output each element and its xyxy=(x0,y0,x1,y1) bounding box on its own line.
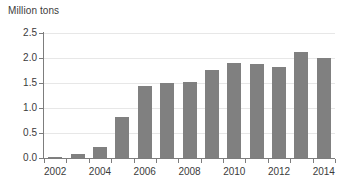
x-axis-tick-mark xyxy=(156,159,157,163)
x-axis-tick-label: 2004 xyxy=(80,166,120,177)
chart-title: Million tons xyxy=(8,5,59,17)
bar xyxy=(115,117,129,158)
x-axis-tick-mark xyxy=(313,159,314,163)
bar xyxy=(227,63,241,159)
y-axis-tick-label: 0.5 xyxy=(23,128,37,138)
x-axis-tick-mark xyxy=(290,159,291,163)
x-axis-tick-label: 2008 xyxy=(170,166,210,177)
bar xyxy=(272,67,286,159)
y-axis-tick-label: 1.5 xyxy=(23,78,37,88)
bar-chart: Million tons 0.00.51.01.52.02.5 20022004… xyxy=(0,0,343,185)
bar xyxy=(93,147,107,158)
x-axis-tick-mark xyxy=(134,159,135,163)
x-axis-tick-label: 2012 xyxy=(259,166,299,177)
plot-area xyxy=(44,33,335,158)
x-axis-tick-mark xyxy=(245,159,246,163)
bar xyxy=(48,157,62,159)
x-axis-tick-mark xyxy=(201,159,202,163)
x-axis-tick-mark xyxy=(66,159,67,163)
bar xyxy=(71,154,85,158)
y-axis-tick-label: 2.0 xyxy=(23,53,37,63)
bar xyxy=(317,58,331,158)
y-axis-tick-label: 2.5 xyxy=(23,28,37,38)
x-axis-tick-mark xyxy=(178,159,179,163)
x-axis-tick-label: 2002 xyxy=(35,166,75,177)
bar xyxy=(250,64,264,158)
bar xyxy=(294,52,308,159)
bar xyxy=(138,86,152,159)
x-axis-tick-mark xyxy=(223,159,224,163)
x-axis-tick-mark xyxy=(268,159,269,163)
x-axis-tick-label: 2014 xyxy=(304,166,343,177)
bar xyxy=(160,83,174,159)
x-axis-tick-label: 2010 xyxy=(214,166,254,177)
x-axis-tick-mark xyxy=(89,159,90,163)
y-axis-tick-label: 1.0 xyxy=(23,103,37,113)
y-axis-tick-label: 0.0 xyxy=(23,153,37,163)
x-axis-tick-mark xyxy=(111,159,112,163)
x-axis-line xyxy=(43,158,335,159)
x-axis-tick-label: 2006 xyxy=(125,166,165,177)
x-axis-tick-mark xyxy=(335,159,336,163)
bar xyxy=(205,70,219,158)
bar xyxy=(183,82,197,159)
x-axis-tick-mark xyxy=(44,159,45,163)
